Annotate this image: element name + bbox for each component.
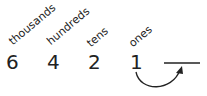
curved-arrow-icon — [136, 70, 180, 87]
arrow-and-blank — [0, 0, 207, 96]
arrowhead-icon — [176, 66, 183, 74]
